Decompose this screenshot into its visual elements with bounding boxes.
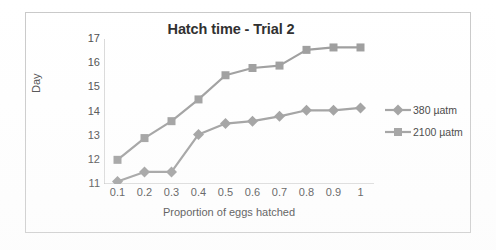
data-point-diamond (112, 176, 123, 184)
y-axis-tick-label: 17 (78, 33, 100, 44)
chart-title: Hatch time - Trial 2 (116, 21, 346, 37)
x-axis-tick-label: 0.1 (103, 187, 133, 198)
legend-item-1[interactable]: 2100 µatm (384, 121, 470, 143)
series-line-1 (118, 47, 361, 159)
legend-marker-diamond (384, 104, 412, 116)
data-point-diamond (328, 105, 339, 116)
data-point-square (249, 64, 257, 72)
legend-label: 380 µatm (413, 104, 457, 116)
y-axis-tick-label: 16 (78, 57, 100, 68)
data-point-square (303, 46, 311, 54)
data-point-square (195, 95, 203, 103)
x-axis-title: Proportion of eggs hatched (74, 206, 384, 218)
data-point-diamond (301, 105, 312, 116)
y-axis-tick-label: 12 (78, 154, 100, 165)
x-axis-tick-labels: 0.10.20.30.40.50.60.70.80.91 (104, 187, 374, 203)
data-point-square (141, 134, 149, 142)
x-axis-tick-label: 0.5 (211, 187, 241, 198)
y-axis-tick-label: 15 (78, 81, 100, 92)
x-axis-tick-label: 0.4 (184, 187, 214, 198)
data-point-square (330, 43, 338, 51)
x-axis-tick-label: 1 (346, 187, 376, 198)
data-point-diamond (220, 118, 231, 129)
data-point-square (114, 156, 122, 164)
x-axis-tick-label: 0.7 (265, 187, 295, 198)
legend-label: 2100 µatm (413, 126, 463, 138)
data-point-diamond (139, 166, 150, 177)
y-axis-title: Day (30, 73, 42, 93)
chart-frame: Hatch time - Trial 2 Day 11121314151617 … (25, 12, 471, 233)
data-point-square (222, 71, 230, 79)
x-axis-tick-label: 0.6 (238, 187, 268, 198)
plot-area (104, 39, 374, 184)
legend-item-0[interactable]: 380 µatm (384, 99, 470, 121)
y-axis-tick-labels: 11121314151617 (74, 39, 100, 184)
x-axis-tick-label: 0.3 (157, 187, 187, 198)
chart-legend: 380 µatm2100 µatm (384, 99, 470, 143)
y-axis-tick-label: 14 (78, 106, 100, 117)
series-line-0 (118, 108, 361, 182)
data-point-diamond (355, 102, 366, 113)
data-point-square (276, 62, 284, 70)
data-point-square (394, 128, 402, 136)
data-point-diamond (247, 116, 258, 127)
plot-svg (104, 39, 374, 184)
data-point-diamond (274, 111, 285, 122)
legend-marker-square (384, 126, 412, 138)
x-axis-tick-label: 0.9 (319, 187, 349, 198)
y-axis-tick-label: 11 (78, 178, 100, 189)
data-point-square (168, 117, 176, 125)
y-axis-tick-label: 13 (78, 130, 100, 141)
data-point-square (357, 43, 365, 51)
x-axis-tick-label: 0.8 (292, 187, 322, 198)
x-axis-tick-label: 0.2 (130, 187, 160, 198)
data-point-diamond (393, 105, 404, 116)
